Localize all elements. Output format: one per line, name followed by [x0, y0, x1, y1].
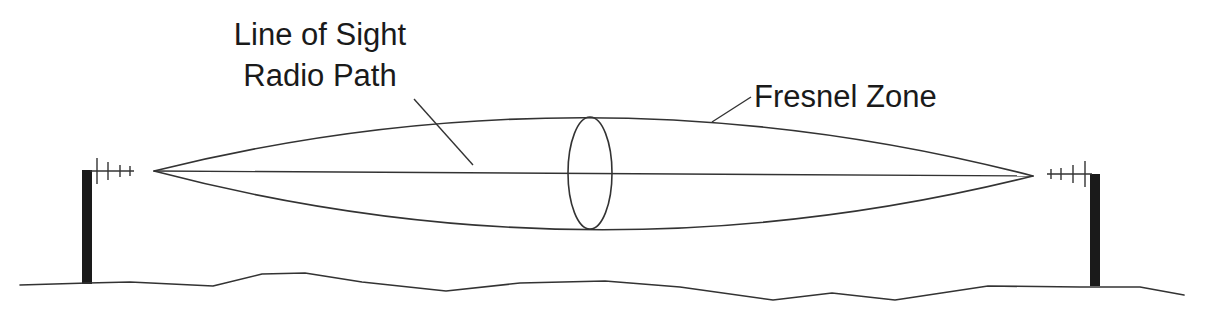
fresnel-zone-lower-edge: [154, 171, 1033, 230]
ground-terrain: [20, 273, 1184, 300]
fresnel-zone-upper-edge: [154, 118, 1033, 176]
fresnel-zone-label: Fresnel Zone: [754, 79, 937, 114]
left-mast: [82, 170, 92, 284]
los-label-line1: Line of Sight: [234, 17, 407, 52]
line-of-sight-path: [154, 171, 1033, 176]
fresnel-leader-line: [712, 97, 751, 122]
left-antenna: [82, 158, 134, 284]
right-antenna: [1047, 161, 1100, 286]
los-leader-line: [414, 99, 473, 165]
right-mast: [1090, 174, 1100, 286]
fresnel-zone-diagram: Line of Sight Radio Path Fresnel Zone: [0, 0, 1219, 316]
los-label-line2: Radio Path: [243, 58, 396, 93]
